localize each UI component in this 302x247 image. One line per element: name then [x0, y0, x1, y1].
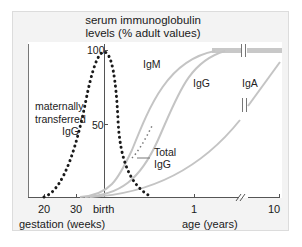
y-label-100: 100	[87, 44, 105, 56]
total-label-line-2: IgG	[154, 158, 176, 170]
title-line-1: serum immunoglobulin	[68, 14, 218, 27]
x-axis-title-age: age (years)	[182, 218, 238, 230]
x-axis-title-gestation: gestation (weeks)	[19, 218, 105, 230]
maternal-igg-label: maternally transferred IgG	[35, 100, 79, 138]
y-label-50: 50	[92, 119, 104, 131]
x-label-1: 1	[191, 203, 197, 215]
title-line-2: levels (% adult values)	[68, 27, 218, 40]
chart-title: serum immunoglobulin levels (% adult val…	[68, 14, 218, 40]
maternal-label-line-3: IgG	[35, 125, 79, 138]
maternal-label-line-1: maternally	[35, 100, 79, 113]
total-label-line-1: Total	[154, 146, 176, 158]
total-igg-label: Total IgG	[154, 146, 176, 170]
x-label-30: 30	[70, 203, 82, 215]
iga-label: IgA	[242, 77, 258, 89]
igg-label: IgG	[193, 77, 210, 89]
maternal-label-line-2: transferred	[35, 113, 79, 126]
x-label-10: 10	[268, 203, 280, 215]
x-label-birth: birth	[93, 203, 114, 215]
x-label-20: 20	[38, 203, 50, 215]
igm-label: IgM	[143, 58, 161, 70]
